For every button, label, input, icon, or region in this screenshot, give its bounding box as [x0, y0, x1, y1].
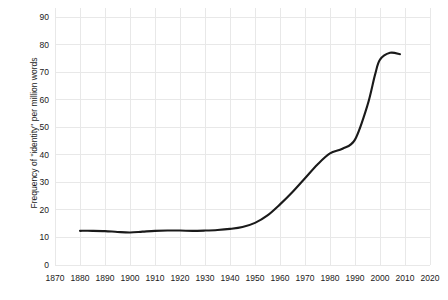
x-tick-label: 2000	[371, 273, 390, 283]
x-tick-label: 1910	[146, 273, 165, 283]
y-tick-label: 60	[40, 95, 50, 105]
x-tick-label: 1940	[221, 273, 240, 283]
y-tick-label: 70	[40, 67, 50, 77]
x-tick-label: 1900	[121, 273, 140, 283]
y-tick-label: 10	[40, 232, 50, 242]
x-tick-label: 2010	[396, 273, 415, 283]
x-tick-label: 1870	[46, 273, 65, 283]
x-tick-label: 1880	[71, 273, 90, 283]
x-tick-label: 1970	[296, 273, 315, 283]
y-tick-label: 20	[40, 205, 50, 215]
x-tick-label: 1980	[321, 273, 340, 283]
y-tick-label: 80	[40, 40, 50, 50]
y-tick-label: 0	[44, 260, 49, 270]
x-tick-label: 1920	[171, 273, 190, 283]
chart-container: Frequency of "identity" per million word…	[0, 0, 448, 300]
x-tick-label: 1890	[96, 273, 115, 283]
data-series-group	[80, 53, 400, 233]
y-tick-label: 50	[40, 122, 50, 132]
x-tick-labels: 1870188018901900191019201930194019501960…	[46, 273, 440, 283]
y-tick-label: 90	[40, 12, 50, 22]
x-tick-label: 1950	[246, 273, 265, 283]
x-tick-label: 1930	[196, 273, 215, 283]
x-tick-label: 2020	[421, 273, 440, 283]
x-tick-label: 1960	[271, 273, 290, 283]
x-tick-label: 1990	[346, 273, 365, 283]
data-line-identity	[80, 53, 400, 233]
line-chart-plot: 0102030405060708090 18701880189019001910…	[0, 0, 448, 300]
y-tick-labels: 0102030405060708090	[40, 12, 50, 270]
y-tick-label: 40	[40, 150, 50, 160]
y-tick-label: 30	[40, 177, 50, 187]
